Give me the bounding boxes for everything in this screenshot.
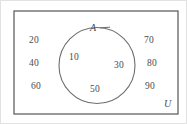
element-inside-a-30: 30 [114, 61, 124, 71]
element-outside-a-70: 70 [144, 36, 154, 46]
element-outside-a-20: 20 [29, 36, 39, 46]
element-inside-a-50: 50 [90, 85, 100, 95]
element-outside-a-90: 90 [145, 82, 155, 92]
element-inside-a-10: 10 [69, 53, 79, 63]
set-a-label: A [90, 23, 96, 33]
element-outside-a-60: 60 [31, 82, 41, 92]
element-outside-a-40: 40 [29, 59, 39, 69]
venn-diagram-figure: A U 10 30 50 20 40 60 70 80 90 [0, 0, 187, 124]
a-label-leader-icon [100, 27, 110, 28]
element-outside-a-80: 80 [147, 59, 157, 69]
universal-set-label: U [164, 99, 171, 109]
